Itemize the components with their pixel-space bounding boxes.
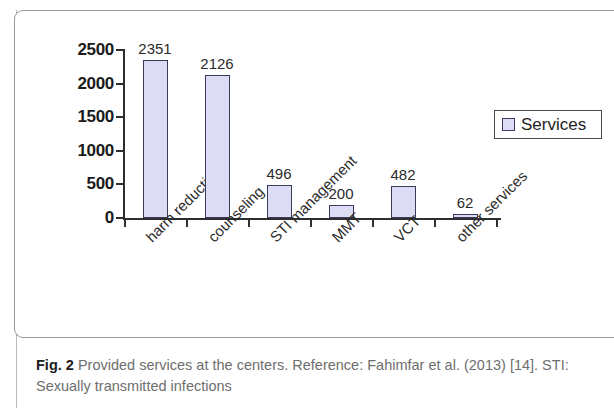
y-axis-tick-label: 500 <box>58 175 114 192</box>
y-axis-tick <box>116 183 124 185</box>
x-axis-tick <box>186 219 188 227</box>
y-axis-tick <box>116 83 124 85</box>
y-axis-tick-label: 2000 <box>58 75 114 92</box>
bar-value-label: 482 <box>373 167 433 182</box>
figure-caption: Fig. 2 Provided services at the centers.… <box>36 355 581 397</box>
x-axis-tick <box>496 219 498 227</box>
y-axis-tick-label-wrap: 500 <box>54 184 114 185</box>
y-axis-tick-label: 1000 <box>58 142 114 159</box>
x-axis-tick <box>248 219 250 227</box>
y-axis-tick-label-wrap: 2000 <box>54 84 114 85</box>
y-axis-tick-label-wrap: 2500 <box>54 50 114 51</box>
figure-caption-body: Provided services at the centers. Refere… <box>36 357 569 394</box>
y-axis-tick-label-wrap: 0 <box>54 218 114 219</box>
y-axis-tick-label: 2500 <box>58 41 114 58</box>
x-axis-tick <box>372 219 374 227</box>
bar-harm-reduction <box>143 60 168 218</box>
legend-label-services: Services <box>521 115 586 135</box>
y-axis-tick <box>116 217 124 219</box>
x-axis-tick <box>434 219 436 227</box>
plot-area: 050010001500200025002351harm reduction21… <box>15 11 612 338</box>
bar-value-label: 2126 <box>187 56 247 71</box>
bar-counseling <box>205 75 230 218</box>
y-axis-line <box>123 49 125 220</box>
y-axis-tick-label: 0 <box>58 209 114 226</box>
legend-swatch-services <box>502 118 515 131</box>
x-axis-tick <box>124 219 126 227</box>
y-axis-tick <box>116 116 124 118</box>
y-axis-tick-label: 1500 <box>58 108 114 125</box>
y-axis-tick <box>116 49 124 51</box>
bar-value-label: 200 <box>311 186 371 201</box>
bar-value-label: 496 <box>249 166 309 181</box>
y-axis-tick-label-wrap: 1500 <box>54 117 114 118</box>
y-axis-tick <box>116 150 124 152</box>
bar-value-label: 2351 <box>125 41 185 56</box>
x-axis-tick <box>310 219 312 227</box>
y-axis-tick-label-wrap: 1000 <box>54 151 114 152</box>
figure-caption-number: Fig. 2 <box>36 357 74 373</box>
chart-legend: Services <box>494 110 602 139</box>
chart-panel: 050010001500200025002351harm reduction21… <box>14 10 614 338</box>
